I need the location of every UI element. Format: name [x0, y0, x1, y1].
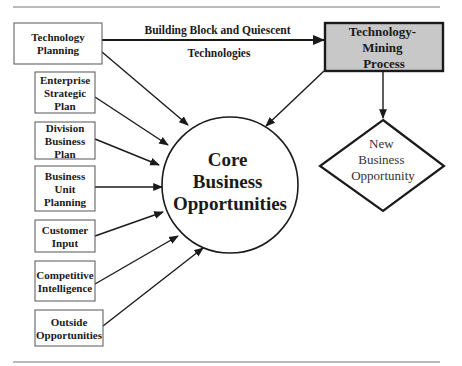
- core-node[interactable]: Core Business Opportunities: [162, 117, 298, 253]
- input-label-line: Competitive: [36, 269, 94, 281]
- input-label-line: Division: [46, 122, 85, 134]
- input-label-line: Outside: [51, 316, 88, 328]
- mining-label-line: Technology-: [349, 24, 416, 39]
- input-label-line: Unit: [55, 183, 76, 195]
- arrow-technology-planning-to-core: [102, 52, 188, 125]
- outcome-label-line: New: [369, 136, 394, 151]
- new-business-opportunity-node[interactable]: New Business Opportunity: [320, 120, 444, 211]
- input-label-line: Technology: [31, 31, 85, 43]
- outcome-label-line: Opportunity: [351, 168, 415, 183]
- arrow-outside-opportunities-to-core: [103, 248, 203, 326]
- input-boxes-group: TechnologyPlanningEnterpriseStrategicPla…: [14, 23, 103, 346]
- outcome-label-line: Business: [358, 152, 404, 167]
- input-node-technology-planning[interactable]: TechnologyPlanning: [14, 23, 102, 64]
- input-label-line: Plan: [54, 100, 75, 112]
- input-label-line: Enterprise: [40, 74, 90, 86]
- mining-label-line: Mining: [362, 40, 403, 55]
- input-node-competitive-intelligence[interactable]: CompetitiveIntelligence: [35, 261, 95, 301]
- edge-label-line: Building Block and Quiescent: [145, 24, 291, 37]
- input-label-line: Customer: [42, 224, 89, 236]
- input-label-line: Intelligence: [38, 282, 92, 294]
- core-label-line: Core: [208, 149, 248, 170]
- input-node-outside-opportunities[interactable]: OutsideOpportunities: [35, 310, 103, 346]
- input-label-line: Plan: [54, 148, 75, 160]
- mining-label-line: Process: [363, 56, 405, 71]
- edge-label-building-block: Building Block and Quiescent Technologie…: [145, 24, 294, 60]
- arrow-customer-input-to-core: [95, 212, 163, 236]
- input-label-line: Strategic: [44, 87, 86, 99]
- input-node-enterprise-strategic-plan[interactable]: EnterpriseStrategicPlan: [35, 72, 95, 113]
- core-label-line: Opportunities: [173, 193, 287, 214]
- input-label-line: Business: [45, 135, 86, 147]
- input-label-technology-planning: TechnologyPlanning: [31, 31, 85, 56]
- input-label-competitive-intelligence: CompetitiveIntelligence: [36, 269, 94, 294]
- input-node-division-business-plan[interactable]: DivisionBusinessPlan: [35, 122, 95, 160]
- input-node-customer-input[interactable]: CustomerInput: [35, 220, 95, 252]
- arrow-mining-to-core: [266, 71, 324, 126]
- input-label-line: Planning: [37, 44, 80, 56]
- input-label-line: Opportunities: [36, 329, 103, 341]
- input-node-business-unit-planning[interactable]: BusinessUnitPlanning: [35, 166, 95, 211]
- edge-label-line: Technologies: [188, 47, 251, 60]
- input-label-line: Input: [52, 237, 79, 249]
- core-label-line: Business: [193, 171, 263, 192]
- input-label-line: Planning: [44, 196, 87, 208]
- diagram-canvas: TechnologyPlanningEnterpriseStrategicPla…: [0, 0, 462, 366]
- arrow-division-business-plan-to-core: [95, 139, 159, 165]
- input-label-line: Business: [45, 170, 86, 182]
- technology-mining-process-node[interactable]: Technology- Mining Process: [325, 23, 443, 71]
- arrow-enterprise-strategic-plan-to-core: [95, 97, 168, 145]
